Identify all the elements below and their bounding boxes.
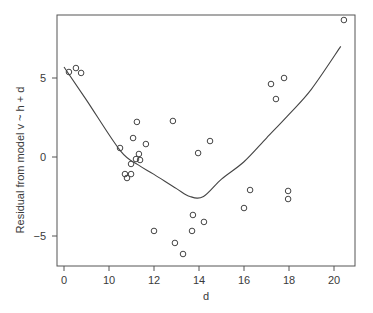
y-axis-label: Residual from model v ~ h + d <box>14 87 26 234</box>
data-point <box>143 141 149 147</box>
data-point <box>207 138 213 144</box>
data-point <box>172 240 178 246</box>
data-point <box>190 212 196 218</box>
y-tick-label: 0 <box>40 151 46 163</box>
x-tick-label: 14 <box>193 274 205 286</box>
data-point <box>189 228 195 234</box>
x-tick-label: 0 <box>61 274 67 286</box>
data-point <box>180 251 186 257</box>
data-point <box>241 205 247 211</box>
data-point <box>128 171 134 177</box>
x-tick-label: 20 <box>328 274 340 286</box>
data-point <box>341 17 347 23</box>
x-axis: 0101214161820 <box>61 266 340 286</box>
data-point <box>151 228 157 234</box>
x-tick-label: 10 <box>103 274 115 286</box>
data-points <box>66 17 347 257</box>
data-point <box>281 75 287 81</box>
plot-frame <box>57 15 355 266</box>
smooth-curve <box>64 46 341 198</box>
x-tick-label: 12 <box>148 274 160 286</box>
data-point <box>134 119 140 125</box>
data-point <box>285 196 291 202</box>
data-point <box>130 135 136 141</box>
data-point <box>73 65 79 71</box>
data-point <box>128 161 134 167</box>
data-point <box>268 81 274 87</box>
data-point <box>247 187 253 193</box>
x-tick-label: 16 <box>238 274 250 286</box>
data-point <box>273 96 279 102</box>
data-point <box>137 157 143 163</box>
y-tick-label: −5 <box>33 230 46 242</box>
data-point <box>201 219 207 225</box>
data-point <box>78 70 84 76</box>
scatter-plot: 0101214161820 −505 d Residual from model… <box>0 0 373 313</box>
data-point <box>285 188 291 194</box>
y-tick-label: 5 <box>40 72 46 84</box>
y-axis: −505 <box>33 72 57 242</box>
x-tick-label: 18 <box>283 274 295 286</box>
x-axis-label: d <box>203 290 209 302</box>
data-point <box>170 118 176 124</box>
data-point <box>195 150 201 156</box>
